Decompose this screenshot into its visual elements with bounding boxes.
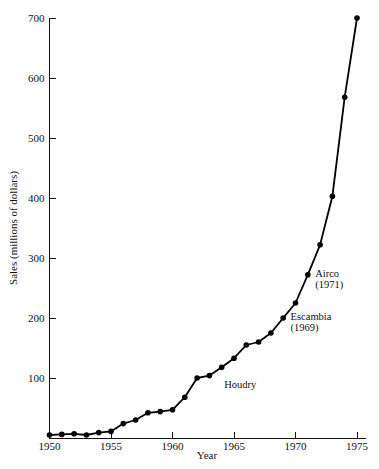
- data-point: [342, 94, 348, 100]
- series-markers-sales: [47, 15, 360, 438]
- annotation-label: Houdry: [224, 379, 257, 390]
- x-tick-label: 1975: [346, 440, 369, 452]
- y-tick-label: 400: [28, 192, 45, 204]
- annotation-sublabel: (1971): [315, 279, 343, 291]
- x-tick-label: 1965: [223, 440, 246, 452]
- data-point: [59, 432, 65, 438]
- chart-annotations: HoudryEscambia(1969)Airco(1971): [224, 268, 344, 391]
- data-point: [280, 315, 286, 321]
- data-point: [305, 272, 311, 278]
- x-tick-label: 1970: [285, 440, 308, 452]
- data-point: [268, 330, 274, 336]
- data-point: [256, 339, 262, 345]
- y-tick-label: 600: [28, 72, 45, 84]
- annotation-sublabel: (1969): [291, 322, 319, 334]
- y-axis-title: Sales (millions of dollars): [7, 171, 20, 285]
- data-point: [121, 421, 127, 427]
- data-point: [330, 193, 336, 199]
- x-tick-label: 1950: [39, 440, 62, 452]
- annotation-label: Airco: [315, 268, 339, 279]
- data-point: [231, 355, 237, 361]
- data-point: [108, 429, 114, 435]
- data-point: [207, 373, 213, 379]
- series-line-sales: [50, 18, 358, 435]
- figure-container: 100200300400500600700 195019551960196519…: [0, 0, 379, 469]
- data-point: [84, 432, 90, 438]
- annotation-label: Escambia: [291, 311, 332, 322]
- y-tick-label: 700: [28, 12, 45, 24]
- data-point: [145, 410, 151, 416]
- data-point: [244, 342, 250, 348]
- data-point: [219, 364, 225, 370]
- data-point: [157, 409, 163, 415]
- data-point: [96, 430, 102, 436]
- sales-line-chart: 100200300400500600700 195019551960196519…: [0, 0, 379, 469]
- data-point: [293, 300, 299, 306]
- y-tick-label: 500: [28, 132, 45, 144]
- data-point: [182, 394, 188, 400]
- x-tick-label: 1960: [162, 440, 185, 452]
- data-point: [133, 417, 139, 423]
- data-point: [194, 375, 200, 381]
- data-point: [317, 242, 323, 248]
- y-tick-label: 200: [28, 312, 45, 324]
- data-point: [354, 15, 360, 21]
- x-axis-title: Year: [197, 449, 218, 461]
- data-point: [170, 407, 176, 413]
- y-tick-label: 100: [28, 372, 45, 384]
- data-point: [47, 432, 53, 438]
- x-tick-label: 1955: [100, 440, 123, 452]
- y-axis-ticks: 100200300400500600700: [28, 12, 56, 384]
- data-point: [71, 431, 77, 437]
- y-tick-label: 300: [28, 252, 45, 264]
